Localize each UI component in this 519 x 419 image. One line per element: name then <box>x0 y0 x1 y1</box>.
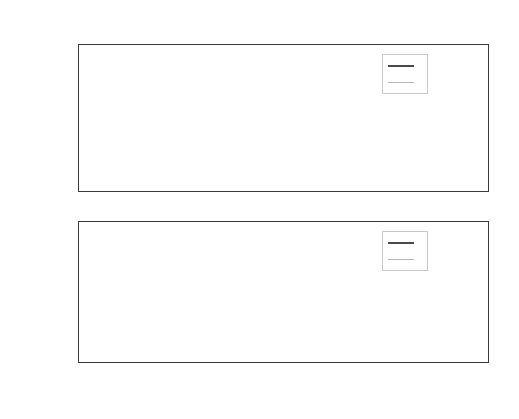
legend-line-with-hsg-icon <box>388 242 414 244</box>
figure-canvas <box>0 0 519 419</box>
legend-item-regular <box>388 251 421 267</box>
legend-item-with-hsg <box>388 235 421 251</box>
legend-item-regular <box>388 74 421 90</box>
legend-item-with-hsg <box>388 58 421 74</box>
legend-line-regular-icon <box>388 82 414 83</box>
legend-line-with-hsg-icon <box>388 65 414 67</box>
legend-bottom <box>382 231 428 271</box>
legend-top <box>382 54 428 94</box>
legend-line-regular-icon <box>388 259 414 260</box>
